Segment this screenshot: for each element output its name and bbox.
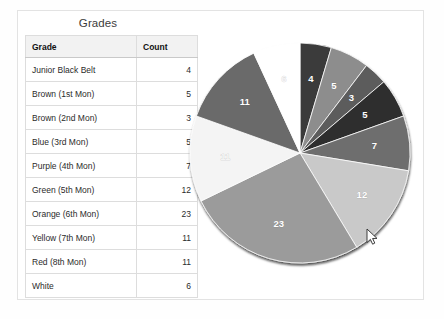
table-row[interactable]: Red (8th Mon)11 [26, 250, 198, 274]
table-header-row: Grade Count [26, 36, 198, 58]
cell-grade: Junior Black Belt [26, 58, 137, 82]
cell-grade: Blue (3rd Mon) [26, 130, 137, 154]
pie-slice-label: 7 [372, 140, 377, 151]
pie-slice-label: 23 [273, 218, 284, 229]
pie-slice-label: 11 [240, 96, 251, 107]
grades-table: Grade Count Junior Black Belt4Brown (1st… [25, 35, 198, 298]
screenshot-root: Grades Grade Count Junior Black Belt4Bro… [0, 0, 444, 319]
grades-table-panel: Grades Grade Count Junior Black Belt4Bro… [25, 14, 171, 298]
cell-grade: Purple (4th Mon) [26, 154, 137, 178]
table-row[interactable]: Brown (1st Mon)5 [26, 82, 198, 106]
cell-grade: Red (8th Mon) [26, 250, 137, 274]
table-row[interactable]: Junior Black Belt4 [26, 58, 198, 82]
pie-slice-label: 11 [220, 151, 231, 162]
table-title: Grades [25, 14, 171, 35]
pie-slice-label: 3 [349, 92, 354, 103]
table-row[interactable]: Purple (4th Mon)7 [26, 154, 198, 178]
table-row[interactable]: Yellow (7th Mon)11 [26, 226, 198, 250]
pie-slice-label: 5 [362, 109, 368, 120]
table-header: Grade Count [26, 36, 198, 58]
pie-slice-label: 12 [357, 189, 368, 200]
cell-grade: White [26, 274, 137, 298]
cell-grade: Brown (1st Mon) [26, 82, 137, 106]
table-row[interactable]: White6 [26, 274, 198, 298]
pie-chart-svg: 45357122311116 [186, 40, 422, 280]
cell-grade: Orange (6th Mon) [26, 202, 137, 226]
pie-slice-label: 5 [331, 80, 337, 91]
pie-slice-label: 6 [281, 73, 286, 84]
table-row[interactable]: Blue (3rd Mon)5 [26, 130, 198, 154]
cell-grade: Brown (2nd Mon) [26, 106, 137, 130]
table-body: Junior Black Belt4Brown (1st Mon)5Brown … [26, 58, 198, 298]
pie-slice-label: 4 [308, 73, 314, 84]
column-header-grade[interactable]: Grade [26, 36, 137, 58]
table-row[interactable]: Orange (6th Mon)23 [26, 202, 198, 226]
cell-grade: Green (5th Mon) [26, 178, 137, 202]
table-row[interactable]: Green (5th Mon)12 [26, 178, 198, 202]
table-row[interactable]: Brown (2nd Mon)3 [26, 106, 198, 130]
cell-grade: Yellow (7th Mon) [26, 226, 137, 250]
grades-pie-chart[interactable]: 45357122311116 [186, 40, 422, 280]
